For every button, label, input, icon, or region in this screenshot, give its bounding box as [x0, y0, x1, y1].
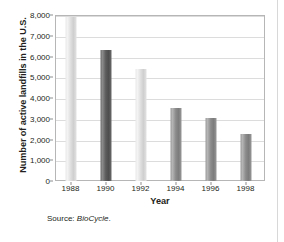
x-axis-tick-label: 1998 [237, 184, 255, 193]
y-axis-tick-label: 2,000 [30, 135, 50, 144]
y-axis-tick-label: 7,000 [30, 31, 50, 40]
landfills-bar-chart-figure: Number of active landfills in the U.S. 0… [0, 0, 284, 242]
y-axis-tick-label: 8,000 [30, 11, 50, 20]
x-axis-tick-mark [175, 182, 176, 185]
y-axis-tick-mark [50, 56, 53, 57]
bar-1992 [135, 69, 146, 181]
x-axis-tick-label: 1996 [202, 184, 220, 193]
source-note: Source: BioCycle. [47, 214, 111, 223]
y-axis-tick-mark [50, 35, 53, 36]
bar-series [55, 15, 265, 181]
x-axis-tick-mark [105, 182, 106, 185]
bar-1994 [170, 108, 181, 181]
x-axis-tick-mark [140, 182, 141, 185]
x-axis-tick-mark [210, 182, 211, 185]
x-axis-tick-label: 1990 [97, 184, 115, 193]
bar-1990 [100, 50, 111, 181]
x-axis-tick-mark [245, 182, 246, 185]
bar-1998 [240, 134, 251, 181]
source-name: BioCycle [77, 214, 109, 223]
x-axis-title: Year [55, 196, 265, 206]
y-axis-tick-mark [50, 181, 53, 182]
y-axis-tick-mark [50, 139, 53, 140]
x-axis-tick-label: 1992 [132, 184, 150, 193]
x-axis-tick-labels: 198819901992199419961998 [55, 182, 265, 196]
source-suffix: . [108, 214, 110, 223]
y-axis-tick-mark [50, 98, 53, 99]
y-axis-tick-mark [50, 118, 53, 119]
y-axis-tick-label: 6,000 [30, 52, 50, 61]
bar-1996 [205, 118, 216, 181]
x-axis-tick-label: 1994 [167, 184, 185, 193]
y-axis-tick-label: 3,000 [30, 114, 50, 123]
x-axis-tick-label: 1988 [62, 184, 80, 193]
y-axis-tick-mark [50, 77, 53, 78]
y-axis-tick-mark [50, 15, 53, 16]
x-axis-tick-mark [70, 182, 71, 185]
y-axis-tick-mark [50, 160, 53, 161]
y-axis-tick-label: 4,000 [30, 94, 50, 103]
source-prefix: Source: [47, 214, 75, 223]
bar-1988 [65, 17, 76, 181]
y-axis-tick-labels: 01,0002,0003,0004,0005,0006,0007,0008,00… [12, 15, 53, 181]
page-edge-rule [277, 0, 278, 242]
y-axis-tick-label: 5,000 [30, 73, 50, 82]
y-axis-tick-label: 1,000 [30, 156, 50, 165]
